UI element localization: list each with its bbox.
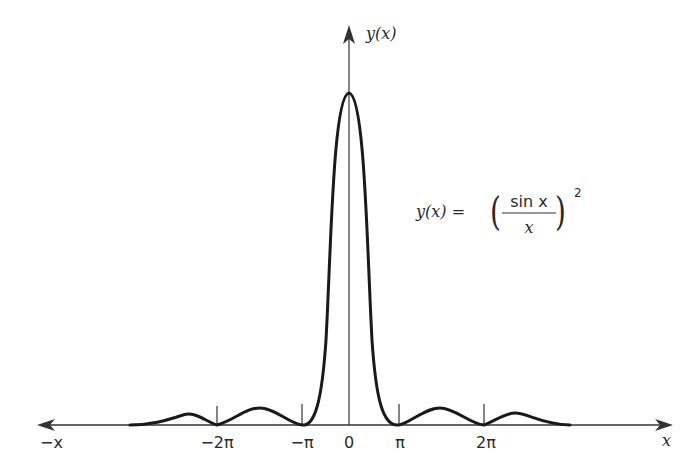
x-axis-label: x	[662, 431, 671, 450]
tick-label-2pi: 2π	[476, 433, 496, 452]
equation-lhs: y(x) =	[415, 202, 465, 221]
sinc-squared-curve	[130, 93, 570, 425]
right-paren: )	[555, 188, 566, 234]
equation-exponent: 2	[574, 186, 582, 200]
equation-numerator: sin x	[510, 192, 547, 211]
equation-denominator: x	[524, 218, 533, 237]
equation: y(x) = ( sin x x ) 2	[415, 186, 582, 237]
tick-label-zero: 0	[344, 433, 354, 452]
left-paren: (	[490, 188, 501, 234]
tick-label-neg-pi: −π	[290, 433, 313, 452]
tick-label-neg-2pi: −2π	[200, 433, 234, 452]
y-axis-label: y(x)	[365, 24, 397, 43]
x-axis-negative-label: −x	[40, 433, 63, 452]
tick-label-pi: π	[395, 433, 405, 452]
sinc-squared-diagram: −x −2π −π 0 π 2π x y(x) y(x) = ( sin x x…	[0, 0, 691, 476]
